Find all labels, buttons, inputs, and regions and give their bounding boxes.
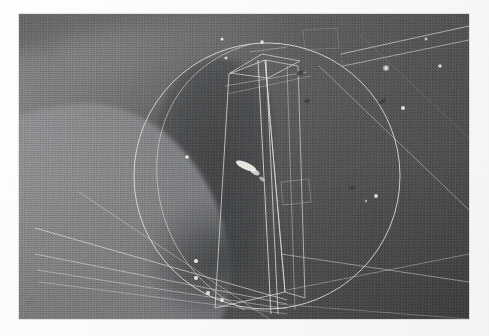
photo-frame: • —— ——— ▪—— <box>19 14 469 319</box>
screenshot-root: • —— ——— ▪—— <box>0 0 489 336</box>
corner-signature-mark: • —— ——— ▪—— <box>26 298 46 311</box>
signature-line-3: ▪—— <box>26 303 46 306</box>
scene-fine-grain <box>19 14 469 319</box>
